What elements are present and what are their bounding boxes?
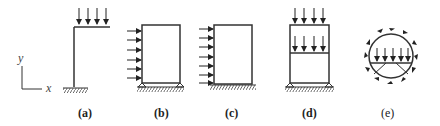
v-brace-right — [396, 63, 408, 74]
floor-load-arrows — [295, 36, 323, 51]
panel-c: (c) — [199, 25, 256, 120]
frame — [290, 25, 329, 83]
frame — [142, 25, 180, 83]
panel-label-b: (b) — [154, 106, 169, 120]
tangential-shear-arrows — [364, 28, 418, 84]
panel-a: (a) — [63, 8, 110, 120]
panel-d: (d) — [285, 8, 334, 120]
frame — [214, 25, 252, 84]
horizontal-load-arrows — [127, 31, 141, 78]
roof-load-arrows — [295, 8, 323, 23]
panel-label-a: (a) — [78, 106, 92, 120]
ground-hatch — [285, 87, 334, 92]
panel-e: (e) — [364, 28, 418, 120]
ground-hatch — [137, 87, 184, 92]
panel-label-d: (d) — [302, 106, 317, 120]
floor-load-arrows — [377, 48, 408, 61]
panel-b: (b) — [127, 25, 184, 120]
horizontal-load-arrows — [199, 29, 213, 83]
panel-label-e: (e) — [381, 106, 394, 120]
distributed-load-arrows — [79, 8, 106, 24]
v-brace-left — [374, 63, 386, 74]
y-axis-label: y — [17, 51, 24, 65]
fixed-support-hatch — [210, 85, 256, 90]
fixed-support-hatch — [63, 88, 88, 93]
ring — [369, 34, 413, 78]
panel-label-c: (c) — [225, 106, 238, 120]
structural-diagram: y x (a) (b) — [0, 0, 440, 126]
coordinate-axes: y x — [17, 51, 52, 95]
x-axis-label: x — [45, 81, 52, 95]
